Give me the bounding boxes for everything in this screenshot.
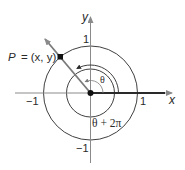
unit-circle-diagram: y x 1 −1 −1 1 P = (x, y) θ θ + 2π xyxy=(0,0,185,170)
point-p-label: P = (x, y) xyxy=(8,51,57,63)
point-p-coords: = (x, y) xyxy=(21,51,57,63)
x-axis-label: x xyxy=(168,93,176,107)
x-tick-neg1: −1 xyxy=(26,95,39,107)
point-p-marker xyxy=(58,54,64,60)
coterminal-angle-label: θ + 2π xyxy=(92,117,121,129)
origin-dot xyxy=(88,90,94,96)
point-p-name: P xyxy=(8,51,16,63)
y-axis-label: y xyxy=(81,10,89,24)
theta-label: θ xyxy=(100,74,105,85)
coterminal-angle-arc xyxy=(77,65,119,93)
y-tick-neg1: −1 xyxy=(76,142,89,154)
y-tick-1: 1 xyxy=(83,33,89,45)
x-tick-1: 1 xyxy=(140,95,146,107)
